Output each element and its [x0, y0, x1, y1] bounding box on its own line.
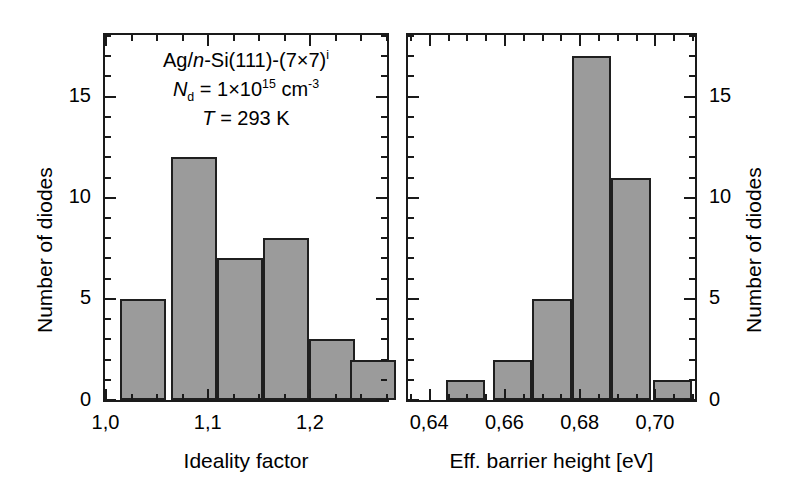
y-minor-tick	[105, 318, 111, 320]
x-minor-tick	[360, 35, 362, 41]
y-minor-tick	[689, 318, 695, 320]
y-minor-tick	[381, 75, 387, 77]
x-minor-tick	[673, 35, 675, 41]
x-major-tick	[579, 389, 581, 400]
x-minor-tick	[542, 35, 544, 41]
x-minor-tick	[485, 394, 487, 400]
y-minor-tick	[381, 116, 387, 118]
y-minor-tick	[689, 116, 695, 118]
y-minor-tick	[689, 338, 695, 340]
x-minor-tick	[335, 394, 337, 400]
y-minor-tick	[408, 359, 414, 361]
y-minor-tick	[105, 55, 111, 57]
y-major-tick	[105, 298, 116, 300]
bar	[350, 360, 396, 400]
y-minor-tick	[408, 55, 414, 57]
x-major-tick	[309, 35, 311, 46]
y-minor-tick	[408, 217, 414, 219]
y-minor-tick	[381, 278, 387, 280]
x-minor-tick	[410, 394, 412, 400]
x-minor-tick	[523, 394, 525, 400]
y-minor-tick	[381, 177, 387, 179]
x-minor-tick	[542, 394, 544, 400]
y-minor-tick	[408, 318, 414, 320]
x-minor-tick	[131, 35, 133, 41]
x-minor-tick	[560, 394, 562, 400]
y-minor-tick	[408, 257, 414, 259]
x-minor-tick	[636, 35, 638, 41]
bar-series-right	[408, 35, 695, 400]
x-minor-tick	[692, 35, 694, 41]
y-minor-tick	[408, 75, 414, 77]
x-minor-tick	[485, 35, 487, 41]
y-major-tick	[684, 96, 695, 98]
y-minor-tick	[381, 359, 387, 361]
y-minor-tick	[381, 257, 387, 259]
y-minor-tick	[381, 338, 387, 340]
y-minor-tick	[105, 257, 111, 259]
x-minor-tick	[448, 35, 450, 41]
bar	[171, 157, 217, 400]
bar	[217, 258, 263, 400]
y-minor-tick	[408, 177, 414, 179]
x-minor-tick	[360, 394, 362, 400]
annotation-line-doping: Nd = 1×1015 cm-3	[115, 75, 377, 104]
x-minor-tick	[673, 394, 675, 400]
y-axis-title-left: Number of diodes	[34, 167, 55, 333]
x-tick-label: 0,66	[464, 412, 544, 432]
y-major-tick	[408, 298, 419, 300]
y-major-tick	[408, 96, 419, 98]
x-major-tick	[654, 389, 656, 400]
x-minor-tick	[156, 394, 158, 400]
x-minor-tick	[284, 35, 286, 41]
x-tick-label: 0,68	[540, 412, 620, 432]
y-minor-tick	[105, 75, 111, 77]
x-major-tick	[105, 35, 107, 46]
y-minor-tick	[689, 278, 695, 280]
y-minor-tick	[408, 278, 414, 280]
x-minor-tick	[617, 394, 619, 400]
x-minor-tick	[182, 394, 184, 400]
annotation-line1-superscript: i	[326, 48, 329, 62]
annotation-line1-prefix: Ag/	[163, 49, 193, 71]
x-minor-tick	[617, 35, 619, 41]
y-minor-tick	[105, 278, 111, 280]
x-tick-label: 1,1	[168, 412, 248, 432]
x-major-tick	[309, 389, 311, 400]
annotation-line3-value: = 293 K	[215, 107, 290, 129]
x-minor-tick	[131, 394, 133, 400]
y-minor-tick	[689, 177, 695, 179]
y-minor-tick	[105, 177, 111, 179]
annotation-line2-middle: = 1×10	[194, 78, 262, 100]
x-tick-label: 1,0	[66, 412, 146, 432]
y-axis-title-right: Number of diodes	[743, 167, 764, 333]
x-minor-tick	[258, 35, 260, 41]
y-minor-tick	[408, 116, 414, 118]
y-minor-tick	[105, 136, 111, 138]
x-tick-label: 0,64	[389, 412, 469, 432]
y-minor-tick	[689, 379, 695, 381]
bar	[263, 238, 309, 400]
y-minor-tick	[689, 257, 695, 259]
x-minor-tick	[386, 394, 388, 400]
x-axis-title-left: Ideality factor	[86, 450, 406, 471]
x-tick-label: 0,70	[615, 412, 695, 432]
x-minor-tick	[284, 394, 286, 400]
x-axis-title-right: Eff. barrier height [eV]	[392, 450, 712, 471]
annotation-line-material: Ag/n-Si(111)-(7×7)i	[115, 46, 377, 75]
x-minor-tick	[636, 394, 638, 400]
y-minor-tick	[381, 379, 387, 381]
y-minor-tick	[408, 237, 414, 239]
bar	[611, 178, 651, 400]
x-minor-tick	[466, 394, 468, 400]
y-minor-tick	[105, 116, 111, 118]
x-minor-tick	[156, 35, 158, 41]
annotation-line2-symbol: N	[173, 78, 187, 100]
y-tick-label: 0	[43, 389, 91, 409]
y-major-tick	[684, 197, 695, 199]
y-minor-tick	[689, 156, 695, 158]
x-major-tick	[207, 389, 209, 400]
x-minor-tick	[598, 394, 600, 400]
x-minor-tick	[335, 35, 337, 41]
x-major-tick	[654, 35, 656, 46]
